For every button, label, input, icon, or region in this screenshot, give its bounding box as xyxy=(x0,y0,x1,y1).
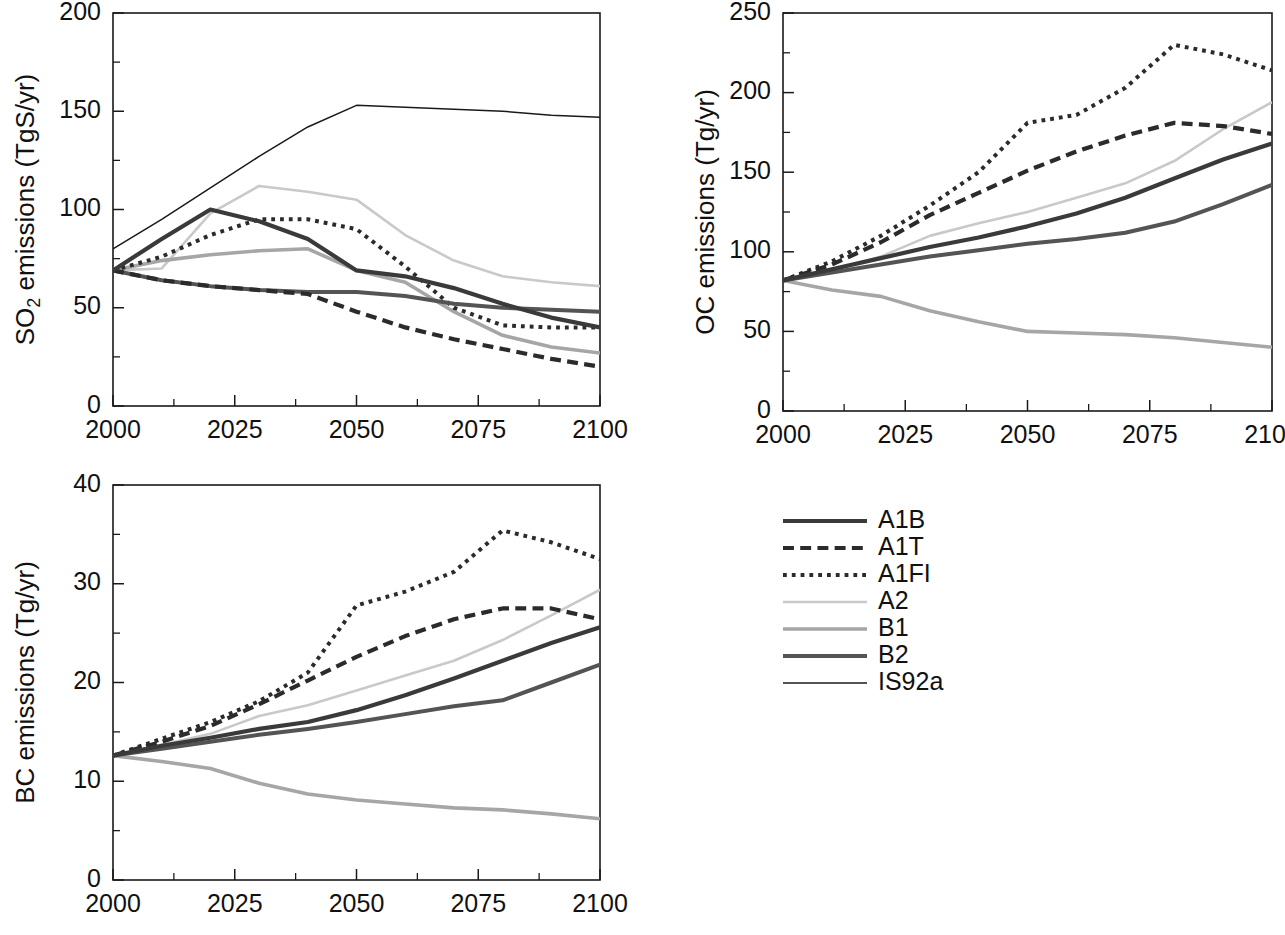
scenario-legend: A1BA1TA1FIA2B1B2IS92a xyxy=(760,495,1060,710)
bc-xtick-label: 2100 xyxy=(572,889,628,917)
so2-series-a1t xyxy=(113,270,600,366)
bc-ytick-label: 20 xyxy=(73,666,101,694)
oc-ytick-label: 0 xyxy=(757,395,771,423)
oc-ytick-label: 200 xyxy=(729,76,771,104)
so2-plot-area: 05010015020020002025205020752100 xyxy=(59,0,628,443)
legend-svg: A1BA1TA1FIA2B1B2IS92a xyxy=(760,495,1060,710)
so2-xtick-label: 2025 xyxy=(207,415,263,443)
bc-ytick-label: 30 xyxy=(73,567,101,595)
bc-xtick-label: 2075 xyxy=(450,889,506,917)
oc-series-group xyxy=(783,45,1272,347)
legend-label-is92a: IS92a xyxy=(878,667,943,695)
oc-ytick-label: 150 xyxy=(729,156,771,184)
so2-emissions-panel: 05010015020020002025205020752100SO2 emis… xyxy=(0,0,640,460)
oc-ytick-label: 250 xyxy=(729,0,771,25)
oc-xtick-label: 2000 xyxy=(755,420,811,448)
so2-chart-svg: 05010015020020002025205020752100SO2 emis… xyxy=(0,0,640,460)
oc-y-axis-title: OC emissions (Tg/yr) xyxy=(690,89,720,335)
bc-series-a1t xyxy=(113,608,600,755)
so2-series-b1 xyxy=(113,249,600,353)
bc-xtick-label: 2025 xyxy=(207,889,263,917)
so2-series-b2 xyxy=(113,270,600,311)
bc-y-axis-title: BC emissions (Tg/yr) xyxy=(10,561,40,804)
oc-xtick-label: 2025 xyxy=(877,420,933,448)
legend-label-b1: B1 xyxy=(878,613,909,641)
oc-chart-svg: 05010015020025020002025205020752100OC em… xyxy=(690,0,1285,460)
so2-xtick-label: 2050 xyxy=(329,415,385,443)
bc-chart-svg: 01020304020002025205020752100BC emission… xyxy=(0,460,640,935)
bc-ytick-label: 0 xyxy=(87,864,101,892)
oc-plot-area: 05010015020025020002025205020752100 xyxy=(729,0,1285,448)
bc-ytick-label: 40 xyxy=(73,469,101,497)
so2-series-group xyxy=(113,105,600,366)
bc-series-b1 xyxy=(113,756,600,819)
so2-ytick-label: 50 xyxy=(73,291,101,319)
oc-series-b1 xyxy=(783,280,1272,347)
oc-emissions-panel: 05010015020025020002025205020752100OC em… xyxy=(690,0,1285,460)
bc-series-a2 xyxy=(113,590,600,756)
bc-plot-frame xyxy=(113,485,600,880)
oc-xtick-label: 2050 xyxy=(1000,420,1056,448)
oc-xtick-label: 2075 xyxy=(1122,420,1178,448)
bc-emissions-panel: 01020304020002025205020752100BC emission… xyxy=(0,460,640,935)
so2-ytick-label: 100 xyxy=(59,193,101,221)
so2-xtick-label: 2100 xyxy=(572,415,628,443)
so2-xtick-label: 2075 xyxy=(450,415,506,443)
so2-plot-frame xyxy=(113,13,600,406)
oc-ytick-label: 50 xyxy=(743,315,771,343)
legend-label-a1b: A1B xyxy=(878,505,925,533)
legend-label-b2: B2 xyxy=(878,640,909,668)
legend-label-a1fi: A1FI xyxy=(878,559,931,587)
legend-label-a1t: A1T xyxy=(878,532,924,560)
so2-y-axis-title: SO2 emissions (TgS/yr) xyxy=(10,74,44,346)
bc-xtick-label: 2050 xyxy=(329,889,385,917)
so2-xtick-label: 2000 xyxy=(85,415,141,443)
so2-series-is92a xyxy=(113,105,600,248)
oc-series-b2 xyxy=(783,185,1272,281)
oc-ytick-label: 100 xyxy=(729,235,771,263)
legend-label-a2: A2 xyxy=(878,586,909,614)
so2-ytick-label: 200 xyxy=(59,0,101,25)
bc-ytick-label: 10 xyxy=(73,765,101,793)
so2-ytick-label: 0 xyxy=(87,390,101,418)
oc-xtick-label: 2100 xyxy=(1244,420,1285,448)
bc-series-group xyxy=(113,530,600,818)
so2-ytick-label: 150 xyxy=(59,95,101,123)
bc-xtick-label: 2000 xyxy=(85,889,141,917)
